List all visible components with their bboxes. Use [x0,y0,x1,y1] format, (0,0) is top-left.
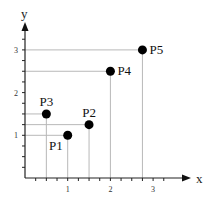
x-tick-label: 3 [151,185,155,194]
y-axis-arrow-icon [22,22,29,31]
data-point [106,67,115,76]
data-point [63,131,72,140]
point-label: P4 [117,63,131,78]
point-label: P3 [39,94,53,109]
data-point [138,45,147,54]
point-label: P2 [82,105,96,120]
y-axis-label: y [21,6,28,21]
y-tick-label: 1 [14,131,18,140]
y-tick-label: 3 [14,46,18,55]
point-label: P5 [149,42,163,57]
scatter-chart: x y 123123 P1P2P3P4P5 [0,0,214,211]
y-tick-label: 2 [14,89,18,98]
x-axis-label: x [196,171,203,186]
x-tick-label: 1 [66,185,70,194]
point-label: P1 [49,138,63,153]
x-tick-label: 2 [108,185,112,194]
data-points: P1P2P3P4P5 [39,42,163,153]
data-point [42,109,51,118]
data-point [85,120,94,129]
x-axis-arrow-icon [182,175,191,182]
